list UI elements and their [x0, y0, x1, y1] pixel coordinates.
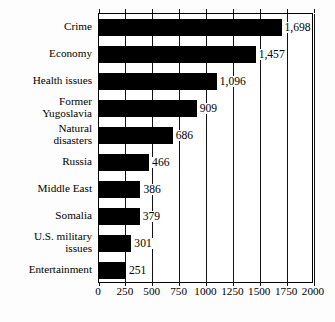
bar-value-label: 1,698 — [283, 22, 312, 34]
bar-value-label: 386 — [141, 184, 161, 196]
plot-area: 1,6981,4571,096909686466386379301251 — [98, 13, 313, 283]
tick-mark-top — [260, 9, 261, 13]
tick-mark-top — [206, 9, 207, 13]
tick-mark-top — [125, 9, 126, 13]
bar — [99, 181, 140, 197]
category-label: Former Yugoslavia — [42, 96, 92, 120]
category-axis-row: Middle East — [0, 175, 95, 202]
x-tick-label: 750 — [170, 286, 187, 297]
x-tick-label: 1250 — [221, 286, 243, 297]
bar-value-label: 686 — [174, 130, 194, 142]
bar — [99, 262, 126, 278]
bar — [99, 46, 256, 62]
category-axis: CrimeEconomyHealth issuesFormer Yugoslav… — [0, 13, 95, 283]
x-tick-label: 1000 — [194, 286, 216, 297]
category-label: Somalia — [55, 210, 92, 222]
tick-mark-top — [314, 9, 315, 13]
bar-value-label: 251 — [127, 265, 147, 277]
bar-chart-figure: CrimeEconomyHealth issuesFormer Yugoslav… — [0, 0, 335, 322]
category-label: Natural disasters — [53, 123, 92, 147]
tick-mark-top — [179, 9, 180, 13]
bar — [99, 235, 131, 251]
category-axis-row: U.S. military issues — [0, 229, 95, 256]
category-axis-row: Health issues — [0, 67, 95, 94]
category-label: Crime — [64, 21, 92, 33]
category-label: Economy — [49, 48, 92, 60]
category-label: Russia — [62, 156, 92, 168]
category-label: U.S. military issues — [34, 231, 92, 255]
bar-value-label: 466 — [150, 157, 170, 169]
category-axis-row: Former Yugoslavia — [0, 94, 95, 121]
x-axis-tick-labels: 025050075010001250150017502000 — [98, 286, 313, 302]
category-label: Health issues — [33, 75, 92, 87]
bars-layer: 1,6981,4571,096909686466386379301251 — [99, 14, 312, 282]
bar — [99, 19, 282, 35]
category-label: Middle East — [38, 183, 92, 195]
x-tick-label: 2000 — [302, 286, 324, 297]
gridline — [314, 14, 315, 282]
bar-value-label: 1,457 — [257, 49, 286, 61]
tick-mark-top — [233, 9, 234, 13]
x-tick-label: 1500 — [248, 286, 270, 297]
bar — [99, 73, 217, 89]
category-axis-row: Crime — [0, 13, 95, 40]
category-axis-row: Russia — [0, 148, 95, 175]
category-axis-row: Somalia — [0, 202, 95, 229]
category-axis-row: Entertainment — [0, 256, 95, 283]
bar-value-label: 379 — [141, 211, 161, 223]
bar — [99, 208, 140, 224]
bar-value-label: 301 — [132, 238, 152, 250]
tick-mark-top — [287, 9, 288, 13]
bar-value-label: 1,096 — [218, 76, 247, 88]
x-tick-label: 500 — [143, 286, 160, 297]
x-tick-label: 250 — [116, 286, 133, 297]
tick-mark-top — [152, 9, 153, 13]
bar — [99, 127, 173, 143]
tick-mark-top — [99, 9, 100, 13]
x-tick-label: 1750 — [275, 286, 297, 297]
x-tick-label: 0 — [95, 286, 101, 297]
category-label: Entertainment — [29, 264, 92, 276]
category-axis-row: Economy — [0, 40, 95, 67]
bar — [99, 154, 149, 170]
bar — [99, 100, 197, 116]
category-axis-row: Natural disasters — [0, 121, 95, 148]
bar-value-label: 909 — [198, 103, 218, 115]
